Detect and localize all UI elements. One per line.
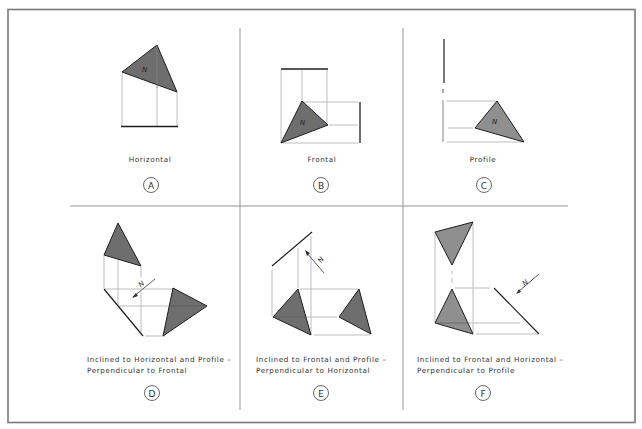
caption-line-1: Frontal [308, 155, 337, 164]
caption-line-1: Inclined to Horizontal and Profile – [87, 355, 232, 364]
normal-label: N [316, 255, 326, 265]
normal-label: N [492, 118, 498, 126]
normal-label: N [137, 279, 147, 289]
normal-arrow: N [132, 279, 155, 298]
panel-letter: A [148, 181, 155, 191]
normal-arrow: N [305, 250, 326, 273]
plane-view-top [104, 223, 141, 266]
plane-true-shape [122, 45, 177, 92]
caption-line-1: Inclined to Frontal and Horizontal – [417, 355, 564, 364]
grid-dividers [70, 28, 568, 410]
caption-line-2: Perpendicular to Horizontal [256, 366, 370, 375]
panel-letter: D [149, 389, 156, 399]
plane-true-shape [475, 101, 524, 142]
panel-letter: B [318, 181, 324, 191]
panel-letter: F [480, 389, 485, 399]
normal-label: N [142, 66, 148, 74]
plane-view-top [435, 222, 473, 265]
panel-b: N Frontal B [281, 69, 360, 193]
normal-arrow: N [516, 274, 539, 294]
panel-d: N Inclined to Horizontal and Profile – P… [87, 223, 232, 401]
panel-f: N Inclined to Frontal and Horizontal – P… [417, 222, 564, 401]
figure-canvas: N Horizontal A N Frontal B [0, 0, 642, 429]
plane-view-side [163, 288, 207, 336]
caption-line-1: Horizontal [129, 155, 172, 164]
caption-line-2: Perpendicular to Frontal [87, 366, 187, 375]
caption-line-1: Profile [470, 155, 497, 164]
panel-a: N Horizontal A [121, 45, 178, 193]
caption-line-2: Perpendicular to Profile [417, 366, 515, 375]
panel-c: N Profile C [443, 39, 524, 193]
panel-letter: E [318, 389, 324, 399]
edge-view-line [494, 288, 539, 334]
edge-view-line [272, 232, 312, 266]
panel-e: N Inclined to Frontal and Profile – Perp… [256, 232, 387, 401]
normal-label: N [300, 119, 306, 127]
plane-view-front [273, 289, 311, 335]
caption-line-1: Inclined to Frontal and Profile – [256, 355, 387, 364]
panel-letter: C [481, 181, 487, 191]
plane-view-front [435, 289, 473, 334]
plane-view-side [339, 289, 371, 334]
